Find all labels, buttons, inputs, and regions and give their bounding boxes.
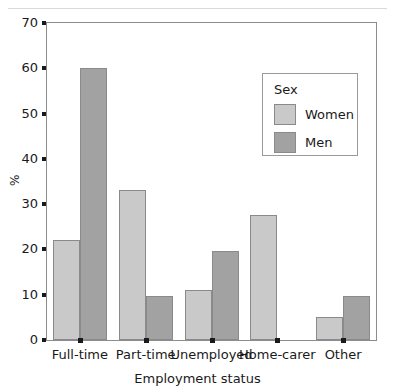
- y-tick-label: 50: [21, 107, 38, 120]
- x-tick-label-other: Other: [325, 347, 362, 362]
- y-tick-label: 20: [21, 242, 38, 255]
- y-tick-mark: [42, 157, 46, 161]
- y-tick-label: 70: [21, 16, 38, 29]
- y-tick-label: 40: [21, 152, 38, 165]
- top-divider-rule: [8, 8, 387, 9]
- y-tick-mark: [42, 247, 46, 251]
- y-tick-mark: [42, 293, 46, 297]
- y-tick-label: 60: [21, 61, 38, 74]
- x-tick-mark: [210, 338, 215, 343]
- bar-other-men: [343, 296, 370, 340]
- chart-figure: % 010203040506070 Full-timePart-timeUnem…: [0, 0, 395, 391]
- x-tick-label-home-carer: Home-carer: [239, 347, 316, 362]
- x-tick-mark: [144, 338, 149, 343]
- y-tick-mark: [42, 66, 46, 70]
- bar-full-time-women: [53, 240, 80, 340]
- y-tick-mark: [42, 112, 46, 116]
- legend-label-men: Men: [305, 135, 332, 150]
- y-tick-label: 0: [30, 333, 38, 346]
- y-axis-title: %: [8, 175, 22, 186]
- legend-swatch-men: [274, 132, 296, 153]
- legend-swatch-women: [274, 104, 296, 125]
- bar-part-time-men: [146, 296, 173, 340]
- bar-unemployed-men: [212, 251, 239, 340]
- legend-label-women: Women: [305, 107, 354, 122]
- bar-other-women: [316, 317, 343, 340]
- x-tick-mark: [341, 338, 346, 343]
- y-tick-mark: [42, 338, 46, 342]
- y-tick-mark: [42, 21, 46, 25]
- y-tick-mark: [42, 202, 46, 206]
- x-axis-title: Employment status: [0, 371, 395, 386]
- legend-box: Sex WomenMen: [262, 73, 358, 156]
- x-tick-label-full-time: Full-time: [52, 347, 108, 362]
- bar-full-time-men: [80, 68, 107, 340]
- y-tick-label: 30: [21, 197, 38, 210]
- x-tick-label-part-time: Part-time: [116, 347, 176, 362]
- bar-part-time-women: [119, 190, 146, 340]
- bar-home-carer-women: [250, 215, 277, 340]
- y-tick-label: 10: [21, 288, 38, 301]
- bar-unemployed-women: [185, 290, 212, 340]
- legend-title: Sex: [274, 82, 298, 97]
- plot-area: 010203040506070: [47, 23, 376, 340]
- x-tick-mark: [275, 338, 280, 343]
- x-tick-mark: [78, 338, 83, 343]
